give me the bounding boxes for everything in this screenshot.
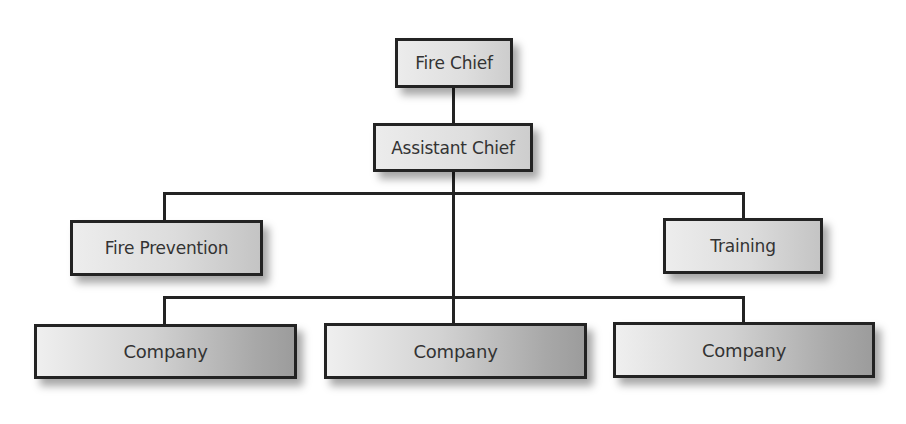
node-label: Company (123, 341, 207, 362)
node-company-center: Company (324, 323, 587, 379)
node-fire-prevention: Fire Prevention (70, 220, 263, 276)
connector-to-training (742, 192, 745, 219)
node-training: Training (663, 218, 823, 274)
node-company-right: Company (613, 322, 875, 378)
node-label: Fire Chief (415, 53, 493, 73)
node-fire-chief: Fire Chief (395, 38, 513, 88)
connector-to-fire-prevention (163, 192, 166, 221)
node-label: Company (413, 341, 497, 362)
connector-to-company-right (742, 296, 745, 323)
org-chart: Fire Chief Assistant Chief Fire Preventi… (0, 0, 906, 424)
connector-chief-to-assistant (452, 86, 455, 124)
connector-to-company-left (163, 296, 166, 325)
connector-company-horizontal (163, 296, 745, 299)
node-label: Company (702, 340, 786, 361)
node-label: Training (710, 236, 775, 256)
node-assistant-chief: Assistant Chief (373, 123, 533, 172)
node-label: Fire Prevention (105, 238, 229, 258)
node-company-left: Company (34, 324, 297, 379)
node-label: Assistant Chief (391, 138, 515, 158)
connector-staff-horizontal (163, 192, 745, 195)
